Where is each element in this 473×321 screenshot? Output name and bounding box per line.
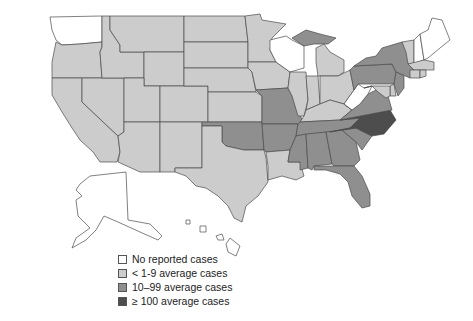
hawaii-island-oahu xyxy=(200,226,206,232)
state-ME xyxy=(420,18,450,60)
legend-swatch-medium-icon xyxy=(118,283,127,292)
hawaii-island-kauai xyxy=(186,220,190,224)
legend-swatch-none-icon xyxy=(118,255,127,264)
state-CO xyxy=(160,86,208,122)
state-WA xyxy=(50,16,102,45)
state-RI xyxy=(420,70,426,78)
state-KS xyxy=(208,92,262,122)
state-FL xyxy=(314,166,370,208)
legend-label: No reported cases xyxy=(132,253,218,265)
legend-item-medium: 10–99 average cases xyxy=(118,280,232,294)
state-NM xyxy=(160,122,202,172)
state-SD xyxy=(184,42,248,68)
state-OR xyxy=(52,42,102,78)
legend-label: < 1-9 average cases xyxy=(132,267,227,279)
state-AZ xyxy=(118,122,160,172)
legend-item-none: No reported cases xyxy=(118,252,232,266)
legend-item-high: ≥ 100 average cases xyxy=(118,294,232,308)
legend-swatch-high-icon xyxy=(118,297,127,306)
legend-label: 10–99 average cases xyxy=(132,281,232,293)
state-CT xyxy=(410,70,420,78)
legend-swatch-low-icon xyxy=(118,269,127,278)
state-AK xyxy=(72,172,162,248)
map-legend: No reported cases < 1-9 average cases 10… xyxy=(118,252,232,308)
state-WY xyxy=(144,52,184,86)
legend-label: ≥ 100 average cases xyxy=(132,295,229,307)
state-MI xyxy=(316,44,344,76)
hawaii-island-maui xyxy=(216,234,224,240)
legend-item-low: < 1-9 average cases xyxy=(118,266,232,280)
state-MT xyxy=(110,16,184,52)
state-ND xyxy=(184,16,248,42)
us-choropleth-map xyxy=(0,0,473,321)
